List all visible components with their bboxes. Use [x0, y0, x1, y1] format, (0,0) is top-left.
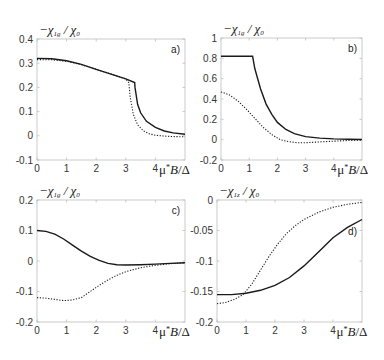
x-tick-label: 2 [93, 163, 99, 174]
panel-label: b) [348, 43, 357, 54]
y-tick-label: 0.4 [19, 34, 33, 45]
x-axis-label: μ*B/Δ [336, 324, 367, 339]
axes-box [37, 200, 185, 322]
y-tick-label: -0.2 [196, 317, 214, 328]
subplot-c: -0.2-0.100.10.201234μ*B/Δ−χ1g / χ0c) [16, 183, 190, 339]
y-tick-label: -0.05 [190, 225, 213, 236]
y-tick-label: 0.4 [203, 94, 217, 105]
y-tick-label: 0.8 [203, 53, 217, 64]
axes-box [217, 200, 362, 322]
y-tick-label: -0.1 [196, 256, 214, 267]
dotted-curve [37, 263, 185, 301]
x-tick-label: 1 [246, 163, 252, 174]
x-tick-label: 0 [214, 325, 220, 336]
x-axis-label: μ*B/Δ [159, 162, 190, 177]
y-axis-label: −χ1z / χ0 [219, 183, 260, 199]
dotted-curve [37, 60, 185, 137]
y-tick-label: 0 [27, 256, 33, 267]
y-tick-label: 0.2 [19, 82, 33, 93]
x-tick-label: 4 [153, 163, 159, 174]
x-tick-label: 0 [218, 163, 224, 174]
y-tick-label: -0.15 [190, 286, 213, 297]
x-tick-label: 4 [330, 325, 336, 336]
y-tick-label: 0 [27, 130, 33, 141]
x-tick-label: 1 [64, 325, 70, 336]
subplot-b: -0.200.20.40.60.8101234μ*B/Δ−χ1g / χ0b) [200, 21, 368, 177]
figure: -0.100.10.20.30.401234μ*B/Δ−χ1g / χ0a) -… [0, 0, 384, 360]
subplot-d: -0.2-0.15-0.1-0.05001234μ*B/Δ−χ1z / χ0d) [190, 183, 367, 339]
x-tick-label: 3 [123, 325, 129, 336]
x-tick-label: 2 [275, 163, 281, 174]
x-tick-label: 3 [301, 325, 307, 336]
y-tick-label: -0.1 [16, 155, 34, 166]
panel-label: d) [348, 226, 357, 237]
dotted-curve [221, 92, 362, 143]
y-tick-label: 0.2 [203, 114, 217, 125]
y-axis-label: −χ1g / χ0 [39, 22, 80, 38]
x-tick-label: 4 [153, 325, 159, 336]
y-tick-label: 0.2 [19, 195, 33, 206]
x-tick-label: 0 [34, 163, 40, 174]
y-tick-label: 0.1 [19, 106, 33, 117]
solid-curve [37, 58, 185, 134]
x-tick-label: 2 [272, 325, 278, 336]
y-tick-label: 0.3 [19, 58, 33, 69]
y-tick-label: 0 [207, 195, 213, 206]
y-tick-label: -0.2 [200, 155, 218, 166]
y-tick-label: 0 [211, 134, 217, 145]
x-tick-label: 3 [303, 163, 309, 174]
y-tick-label: 0.1 [19, 225, 33, 236]
solid-curve [221, 56, 362, 139]
panel-label: a) [171, 44, 180, 55]
y-tick-label: -0.2 [16, 317, 34, 328]
x-tick-label: 0 [34, 325, 40, 336]
y-tick-label: 0.6 [203, 73, 217, 84]
x-tick-label: 1 [243, 325, 249, 336]
y-axis-label: −χ1g / χ0 [223, 21, 264, 37]
solid-curve [37, 231, 185, 266]
y-tick-label: 1 [211, 33, 217, 44]
y-axis-label: −χ1g / χ0 [39, 183, 80, 199]
x-axis-label: μ*B/Δ [159, 324, 190, 339]
dotted-curve [217, 202, 362, 303]
y-tick-label: -0.1 [16, 286, 34, 297]
x-axis-label: μ*B/Δ [337, 162, 368, 177]
subplot-a: -0.100.10.20.30.401234μ*B/Δ−χ1g / χ0a) [16, 22, 190, 177]
panel-label: c) [172, 205, 180, 216]
x-tick-label: 2 [93, 325, 99, 336]
x-tick-label: 1 [64, 163, 70, 174]
x-tick-label: 4 [331, 163, 337, 174]
x-tick-label: 3 [123, 163, 129, 174]
axes-box [37, 39, 185, 160]
